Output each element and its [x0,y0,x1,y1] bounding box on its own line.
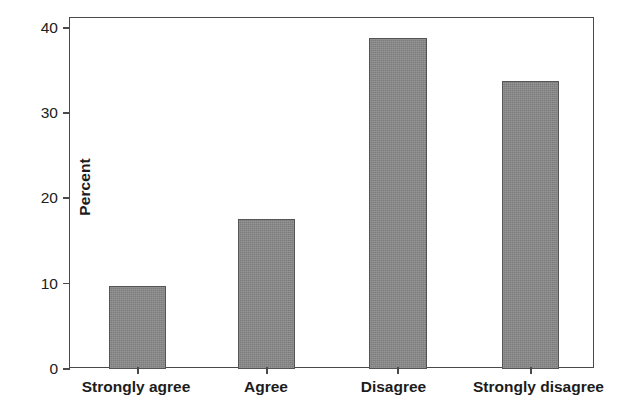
bars-layer [70,18,593,367]
y-tick-mark [63,197,70,199]
y-tick-mark [63,368,70,370]
x-tick-mark-strongly-disagree [530,367,532,374]
x-axis-label-agree: Agree [225,377,307,396]
bar-agree[interactable] [238,219,295,369]
x-tick-mark-agree [266,367,268,374]
x-tick-mark-disagree [397,367,399,374]
y-tick-label: 30 [41,103,58,123]
y-tick-mark [63,283,70,285]
bar-chart: Percent 40 30 20 10 0 [0,0,628,414]
plot-area: Percent 40 30 20 10 0 [69,17,594,368]
x-axis-label-disagree: Disagree [330,377,457,396]
y-tick-label: 20 [41,188,58,208]
bar-disagree[interactable] [369,38,427,369]
y-tick-label: 10 [41,274,58,294]
bar-strongly-disagree[interactable] [502,81,559,369]
y-tick-mark [63,112,70,114]
y-tick-mark [63,27,70,29]
y-tick-label: 0 [49,359,58,379]
x-axis-label-strongly-disagree: Strongly disagree [451,377,626,396]
x-axis-label-strongly-agree: Strongly agree [56,377,216,396]
x-tick-mark-strongly-agree [137,367,139,374]
bar-strongly-agree[interactable] [109,286,166,369]
y-tick-label: 40 [41,18,58,38]
